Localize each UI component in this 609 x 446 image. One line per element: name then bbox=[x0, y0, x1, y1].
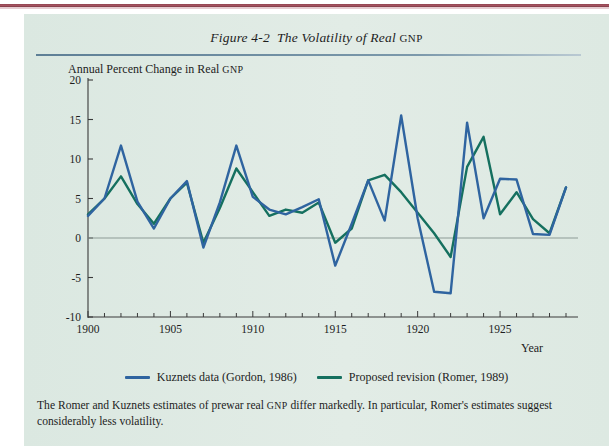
legend-swatch-kuznets bbox=[125, 376, 150, 379]
y-tick-label: 0 bbox=[75, 232, 81, 244]
series-line-kuznets bbox=[88, 116, 566, 294]
x-tick-label: 1920 bbox=[406, 323, 429, 335]
top-maroon-rule-shadow bbox=[0, 7, 609, 9]
figure-panel: Figure 4-2 The Volatility of Real GNP An… bbox=[24, 14, 609, 446]
x-axis-label: Year bbox=[521, 341, 543, 356]
x-tick-label: 1910 bbox=[241, 323, 264, 335]
y-tick-label: 5 bbox=[75, 193, 81, 205]
x-tick-label: 1905 bbox=[159, 323, 182, 335]
figure-page: Figure 4-2 The Volatility of Real GNP An… bbox=[0, 0, 609, 446]
x-tick-label: 1915 bbox=[324, 323, 347, 335]
line-chart-plot: -10-505101520190019051910191519201925 bbox=[24, 14, 609, 364]
x-tick-label: 1925 bbox=[489, 323, 512, 335]
legend-label-romer: Proposed revision (Romer, 1989) bbox=[349, 370, 509, 385]
x-tick-label: 1900 bbox=[77, 323, 100, 335]
legend-label-kuznets: Kuznets data (Gordon, 1986) bbox=[157, 370, 297, 385]
y-tick-label: -5 bbox=[71, 272, 81, 284]
legend-item-romer: Proposed revision (Romer, 1989) bbox=[317, 370, 509, 385]
figure-caption: The Romer and Kuznets estimates of prewa… bbox=[37, 398, 594, 431]
series-line-romer bbox=[88, 137, 566, 257]
y-tick-label: 10 bbox=[70, 153, 82, 165]
y-tick-label: 20 bbox=[70, 74, 82, 86]
chart-legend: Kuznets data (Gordon, 1986) Proposed rev… bbox=[24, 370, 609, 385]
legend-swatch-romer bbox=[317, 376, 342, 379]
y-tick-label: -10 bbox=[66, 311, 82, 323]
legend-item-kuznets: Kuznets data (Gordon, 1986) bbox=[125, 370, 297, 385]
y-tick-label: 15 bbox=[70, 114, 82, 126]
